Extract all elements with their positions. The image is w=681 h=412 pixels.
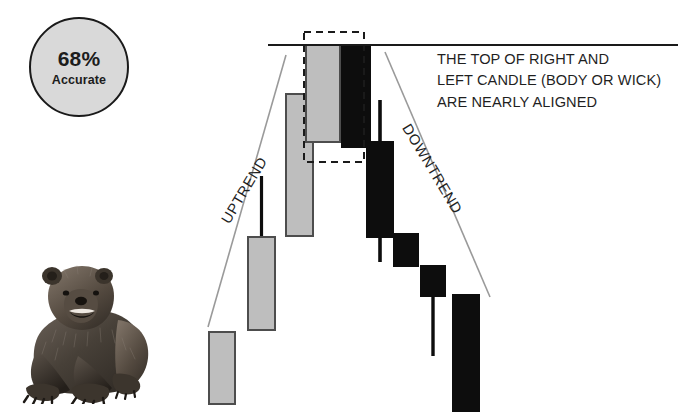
candle-7-bearish [393, 233, 419, 267]
candle-8-bearish [420, 265, 446, 356]
alignment-annotation: THE TOP OF RIGHT AND LEFT CANDLE (BODY O… [437, 49, 677, 113]
candle-2-bullish [248, 176, 275, 330]
candle-1-bullish [209, 332, 235, 404]
candle-5-tweezer-right-bearish [341, 45, 371, 148]
diagram-canvas: 68% Accurate [0, 0, 681, 412]
candle-9-bearish [452, 294, 480, 412]
candle-4-tweezer-left-bullish [306, 45, 340, 142]
